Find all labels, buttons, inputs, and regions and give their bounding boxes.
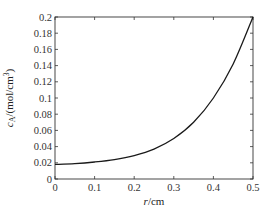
x-tick-label: 0.2 bbox=[128, 182, 141, 193]
data-line bbox=[55, 17, 253, 164]
x-tick-label: 0.3 bbox=[167, 182, 180, 193]
y-tick-label: 0.12 bbox=[34, 76, 52, 87]
y-tick-label: 0 bbox=[47, 174, 52, 185]
y-tick-label: 0.18 bbox=[34, 28, 52, 39]
x-tick-label: 0.5 bbox=[246, 182, 259, 193]
y-tick-label: 0.06 bbox=[34, 125, 52, 136]
x-axis-ticks: 00.10.20.30.40.5 bbox=[52, 17, 259, 193]
x-axis-label: r/cm bbox=[144, 195, 165, 207]
y-axis-ticks: 00.020.040.060.080.10.120.140.160.180.2 bbox=[34, 12, 253, 185]
y-tick-label: 0.02 bbox=[34, 157, 52, 168]
x-tick-label: 0.1 bbox=[88, 182, 101, 193]
plot-area bbox=[55, 17, 253, 179]
plot-border bbox=[55, 17, 253, 179]
y-tick-label: 0.16 bbox=[34, 44, 52, 55]
line-chart: 00.10.20.30.40.5 00.020.040.060.080.10.1… bbox=[0, 0, 269, 212]
y-tick-label: 0.04 bbox=[34, 141, 53, 152]
y-tick-label: 0.14 bbox=[34, 60, 53, 71]
y-tick-label: 0.08 bbox=[34, 109, 52, 120]
x-tick-label: 0.4 bbox=[207, 182, 221, 193]
x-tick-label: 0 bbox=[52, 182, 57, 193]
y-tick-label: 0.1 bbox=[39, 93, 52, 104]
y-axis-label: cA/(mol/cm3) bbox=[2, 68, 17, 127]
y-tick-label: 0.2 bbox=[39, 12, 52, 23]
